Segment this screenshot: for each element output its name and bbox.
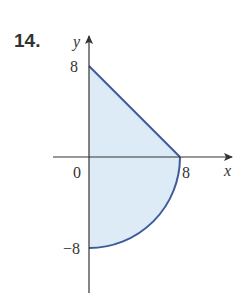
x-tick-8: 8	[182, 164, 190, 181]
x-axis-label: x	[223, 162, 231, 179]
origin-label: 0	[73, 164, 81, 181]
y-axis-label: y	[71, 33, 81, 51]
y-tick-neg8: −8	[63, 240, 80, 257]
y-tick-8: 8	[70, 58, 78, 75]
diagram: y x 8 0 8 −8	[0, 0, 246, 300]
